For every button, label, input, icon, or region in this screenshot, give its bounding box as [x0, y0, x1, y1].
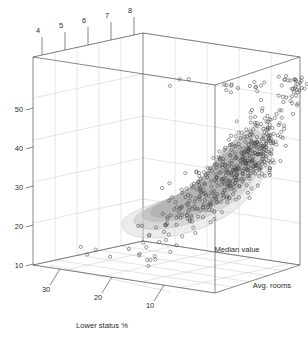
data-point — [280, 130, 283, 133]
data-point — [149, 259, 152, 262]
data-point — [187, 78, 190, 81]
y-tick-label: 7 — [105, 11, 109, 20]
data-points — [79, 74, 308, 267]
data-point — [275, 143, 278, 146]
z-axis-tick-labels: 50 40 30 20 10 — [15, 105, 23, 270]
data-point — [223, 83, 226, 86]
data-point — [275, 112, 278, 115]
data-point — [285, 96, 288, 99]
data-point — [248, 84, 251, 87]
data-point — [285, 74, 288, 77]
data-point — [181, 235, 184, 238]
data-point — [249, 121, 252, 124]
data-point — [250, 108, 253, 111]
data-point — [198, 174, 201, 177]
data-point — [259, 98, 262, 101]
data-point — [248, 196, 251, 199]
data-point — [272, 132, 275, 135]
data-point — [229, 91, 232, 94]
data-point — [127, 247, 130, 250]
plot-canvas: 4 5 6 7 8 50 40 30 20 10 30 — [0, 0, 308, 341]
x-tick-label: 30 — [42, 285, 50, 294]
data-point — [266, 114, 269, 117]
data-point — [225, 89, 228, 92]
data-point — [145, 258, 148, 261]
z-axis-ticks — [26, 108, 33, 266]
data-point — [168, 182, 171, 185]
data-point — [218, 150, 221, 153]
data-point — [184, 171, 187, 174]
data-point — [164, 238, 167, 241]
data-point — [263, 81, 266, 84]
data-point — [271, 126, 274, 129]
data-point — [142, 241, 145, 244]
data-point — [282, 124, 285, 127]
data-point — [281, 95, 284, 98]
z-tick-label: 50 — [15, 105, 23, 114]
data-point — [294, 85, 297, 88]
data-point — [237, 131, 240, 134]
data-point — [249, 116, 252, 119]
y-tick-label: 5 — [59, 21, 63, 30]
data-point — [194, 232, 197, 235]
z-tick-label: 30 — [15, 183, 23, 192]
data-point — [235, 120, 238, 123]
data-point — [300, 76, 303, 79]
x-axis-tick-labels: 30 20 10 — [42, 285, 154, 310]
data-point — [253, 80, 256, 83]
y-axis-ticks — [42, 17, 134, 55]
data-point — [158, 240, 161, 243]
data-point — [169, 250, 172, 253]
x-tick-label: 10 — [146, 301, 154, 310]
data-point — [79, 245, 82, 248]
data-point — [279, 159, 282, 162]
data-point — [234, 135, 237, 138]
y-tick-label: 4 — [36, 26, 40, 35]
data-point — [284, 144, 287, 147]
x-axis-title: Lower status % — [76, 321, 128, 330]
data-point — [305, 82, 308, 85]
y-axis-title: Avg. rooms — [253, 281, 291, 290]
data-point — [289, 99, 292, 102]
data-point — [283, 127, 286, 130]
y-tick-label: 6 — [82, 16, 86, 25]
data-point — [180, 188, 183, 191]
x-tick-label: 20 — [94, 293, 102, 302]
cloud-plot-3d: 4 5 6 7 8 50 40 30 20 10 30 — [0, 0, 308, 341]
z-axis-title: Median value — [214, 245, 259, 254]
data-point — [227, 138, 230, 141]
data-point — [109, 255, 112, 258]
z-tick-label: 20 — [15, 222, 23, 231]
data-point — [229, 134, 232, 137]
data-point — [145, 245, 148, 248]
y-tick-label: 8 — [128, 6, 132, 15]
data-point — [253, 115, 256, 118]
data-point — [292, 112, 295, 115]
data-point — [160, 186, 163, 189]
data-point — [291, 102, 294, 105]
data-point — [282, 100, 285, 103]
z-tick-label: 10 — [15, 261, 23, 270]
data-point — [280, 116, 283, 119]
data-point — [280, 84, 283, 87]
data-point — [273, 116, 276, 119]
density-hull — [122, 125, 274, 238]
data-point — [153, 255, 156, 258]
data-point — [287, 79, 290, 82]
z-tick-label: 40 — [15, 144, 23, 153]
y-axis-tick-labels: 4 5 6 7 8 — [36, 6, 132, 35]
data-point — [280, 109, 283, 112]
data-point — [263, 117, 266, 120]
data-point — [212, 156, 215, 159]
data-point — [277, 75, 280, 78]
data-point — [168, 84, 171, 87]
data-point — [259, 84, 262, 87]
data-point — [94, 248, 97, 251]
data-point — [292, 91, 295, 94]
